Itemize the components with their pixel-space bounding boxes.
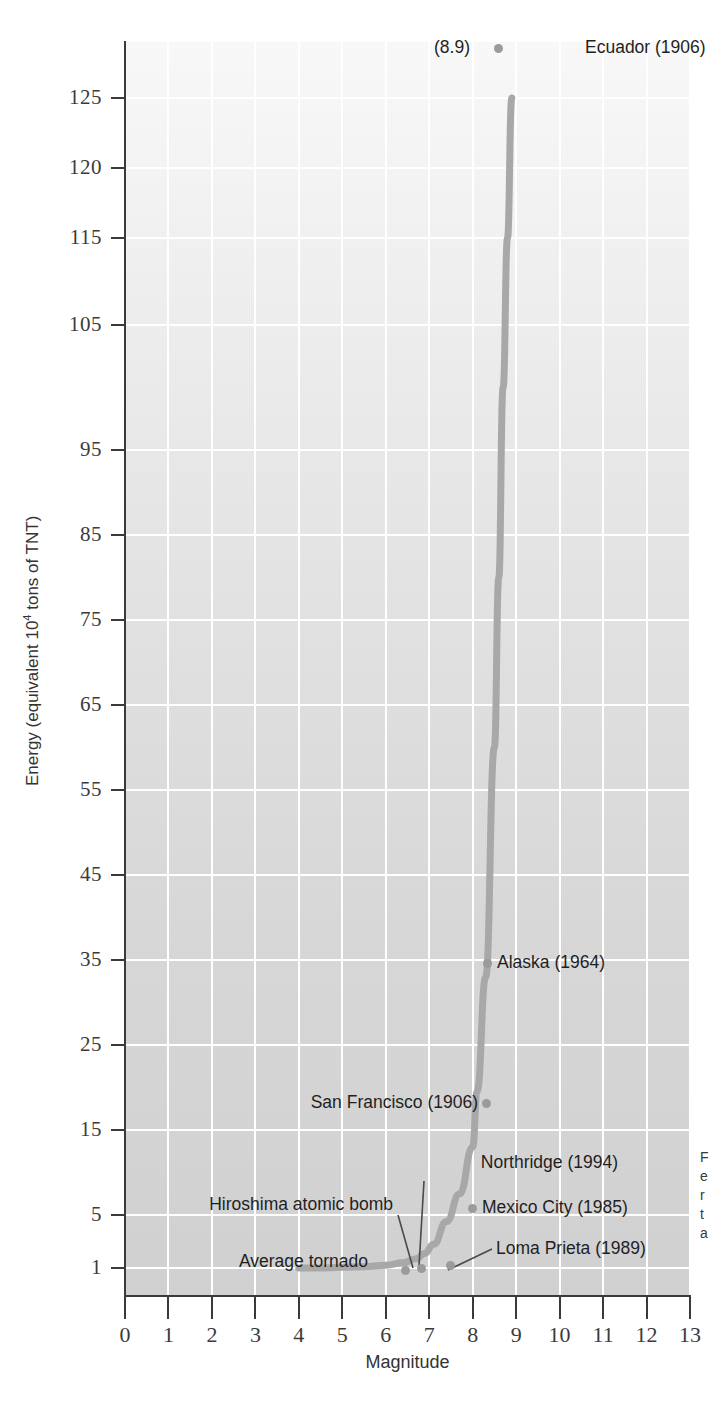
vertical-gridline bbox=[515, 42, 517, 1295]
annotation-label-hiroshima: Hiroshima atomic bomb bbox=[0, 1196, 393, 1214]
y-tick-mark bbox=[111, 789, 124, 791]
horizontal-gridline bbox=[125, 959, 690, 961]
y-tick-mark bbox=[111, 959, 124, 961]
horizontal-gridline bbox=[125, 1044, 690, 1046]
y-tick-mark bbox=[111, 1214, 124, 1216]
horizontal-gridline bbox=[125, 324, 690, 326]
y-tick-label: 125 bbox=[40, 85, 102, 110]
y-tick-label: 25 bbox=[40, 1032, 102, 1057]
x-tick-mark bbox=[254, 1297, 256, 1319]
horizontal-gridline bbox=[125, 534, 690, 536]
x-tick-label: 5 bbox=[322, 1322, 362, 1348]
y-tick-mark bbox=[111, 1129, 124, 1131]
y-axis-title-exponent: 4 bbox=[21, 615, 33, 621]
horizontal-gridline bbox=[125, 619, 690, 621]
y-tick-mark bbox=[111, 237, 124, 239]
caption-line-1: F bbox=[700, 1148, 713, 1167]
y-tick-mark bbox=[111, 167, 124, 169]
x-tick-mark bbox=[472, 1297, 474, 1319]
x-tick-mark bbox=[646, 1297, 648, 1319]
y-tick-mark bbox=[111, 1044, 124, 1046]
x-tick-label: 4 bbox=[279, 1322, 319, 1348]
y-tick-label: 15 bbox=[40, 1117, 102, 1142]
caption-line-2: e bbox=[700, 1167, 713, 1186]
horizontal-gridline bbox=[125, 449, 690, 451]
annotation-label-loma-prieta: Loma Prieta (1989) bbox=[496, 1240, 646, 1258]
x-axis-line bbox=[124, 1295, 691, 1297]
x-tick-label: 12 bbox=[627, 1322, 667, 1348]
x-tick-mark bbox=[689, 1297, 691, 1319]
x-tick-label: 7 bbox=[409, 1322, 449, 1348]
y-tick-label: 45 bbox=[40, 862, 102, 887]
x-tick-mark bbox=[167, 1297, 169, 1319]
y-tick-label: 95 bbox=[40, 437, 102, 462]
vertical-gridline bbox=[689, 42, 691, 1295]
y-tick-mark bbox=[111, 324, 124, 326]
y-tick-label: 35 bbox=[40, 947, 102, 972]
annotation-label-alaska: Alaska (1964) bbox=[497, 954, 605, 972]
y-tick-label: 105 bbox=[40, 312, 102, 337]
x-tick-label: 9 bbox=[496, 1322, 536, 1348]
y-tick-label: 55 bbox=[40, 777, 102, 802]
x-tick-mark bbox=[211, 1297, 213, 1319]
x-tick-label: 6 bbox=[366, 1322, 406, 1348]
x-tick-label: 2 bbox=[192, 1322, 232, 1348]
y-tick-mark bbox=[111, 704, 124, 706]
earthquake-energy-chart: 15152535455565758595105115120125 0123456… bbox=[0, 0, 713, 1403]
x-tick-mark bbox=[124, 1297, 126, 1319]
annotation-label-san-francisco: San Francisco (1906) bbox=[0, 1094, 478, 1112]
y-axis-title: Energy (equivalent 104 tons of TNT) bbox=[21, 301, 43, 1001]
x-tick-label: 10 bbox=[540, 1322, 580, 1348]
y-tick-mark bbox=[111, 619, 124, 621]
x-tick-label: 8 bbox=[453, 1322, 493, 1348]
caption-fragment: F e r t a bbox=[700, 1148, 713, 1243]
x-tick-mark bbox=[559, 1297, 561, 1319]
horizontal-gridline bbox=[125, 1129, 690, 1131]
x-tick-mark bbox=[428, 1297, 430, 1319]
y-tick-label: 85 bbox=[40, 522, 102, 547]
y-tick-label: 120 bbox=[40, 155, 102, 180]
x-axis-title: Magnitude bbox=[125, 1352, 690, 1373]
caption-line-4: t bbox=[700, 1205, 713, 1224]
horizontal-gridline bbox=[125, 704, 690, 706]
vertical-gridline bbox=[602, 42, 604, 1295]
annotation-label-mexico-city: Mexico City (1985) bbox=[482, 1199, 628, 1217]
horizontal-gridline bbox=[125, 874, 690, 876]
horizontal-gridline bbox=[125, 167, 690, 169]
x-tick-mark bbox=[602, 1297, 604, 1319]
x-tick-label: 11 bbox=[583, 1322, 623, 1348]
horizontal-gridline bbox=[125, 237, 690, 239]
annotation-label-ecuador: Ecuador (1906) bbox=[585, 39, 706, 57]
x-tick-label: 13 bbox=[670, 1322, 710, 1348]
annotation-value-ecuador: (8.9) bbox=[0, 39, 470, 57]
x-tick-mark bbox=[385, 1297, 387, 1319]
x-tick-mark bbox=[341, 1297, 343, 1319]
data-point-alaska[interactable] bbox=[483, 959, 492, 968]
y-tick-label: 75 bbox=[40, 607, 102, 632]
vertical-gridline bbox=[559, 42, 561, 1295]
data-point-ecuador[interactable] bbox=[494, 44, 503, 53]
data-point-mexico-city[interactable] bbox=[468, 1204, 477, 1213]
x-tick-mark bbox=[515, 1297, 517, 1319]
y-tick-mark bbox=[111, 534, 124, 536]
annotation-label-northridge: Northridge (1994) bbox=[0, 1154, 618, 1172]
y-tick-label: 65 bbox=[40, 692, 102, 717]
y-axis-title-suffix: tons of TNT) bbox=[23, 516, 42, 615]
data-point-minor-1[interactable] bbox=[401, 1266, 410, 1275]
y-tick-mark bbox=[111, 449, 124, 451]
y-tick-label: 115 bbox=[40, 225, 102, 250]
x-tick-label: 3 bbox=[235, 1322, 275, 1348]
x-tick-label: 1 bbox=[148, 1322, 188, 1348]
data-point-minor-3[interactable] bbox=[446, 1261, 455, 1270]
horizontal-gridline bbox=[125, 97, 690, 99]
y-tick-mark bbox=[111, 874, 124, 876]
y-tick-mark bbox=[111, 97, 124, 99]
data-point-san-francisco[interactable] bbox=[482, 1099, 491, 1108]
horizontal-gridline bbox=[125, 789, 690, 791]
y-axis-title-prefix: Energy (equivalent 10 bbox=[23, 621, 42, 786]
data-point-minor-2[interactable] bbox=[417, 1264, 426, 1273]
vertical-gridline bbox=[646, 42, 648, 1295]
caption-line-3: r bbox=[700, 1186, 713, 1205]
annotation-label-average-tornado: Average tornado bbox=[0, 1253, 368, 1271]
caption-line-5: a bbox=[700, 1224, 713, 1243]
